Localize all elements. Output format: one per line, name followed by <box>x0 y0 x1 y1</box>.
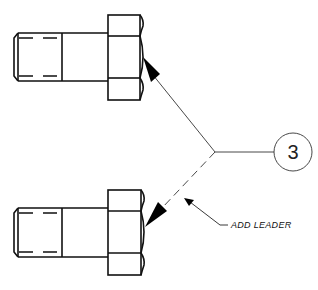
add-leader-note: ADD LEADER <box>184 198 292 230</box>
drawing-canvas: 3 ADD LEADER <box>0 0 318 290</box>
annotation-text: ADD LEADER <box>230 220 292 230</box>
balloon-label: 3 <box>287 141 298 163</box>
balloon-callout: 3 <box>274 133 312 171</box>
upper-bolt <box>14 15 143 100</box>
arrowhead-note <box>184 198 194 206</box>
arrowhead-upper <box>143 57 160 82</box>
lower-bolt <box>14 190 144 275</box>
arrowhead-lower <box>145 202 167 227</box>
added-leader <box>145 152 215 227</box>
existing-leader <box>143 57 215 152</box>
